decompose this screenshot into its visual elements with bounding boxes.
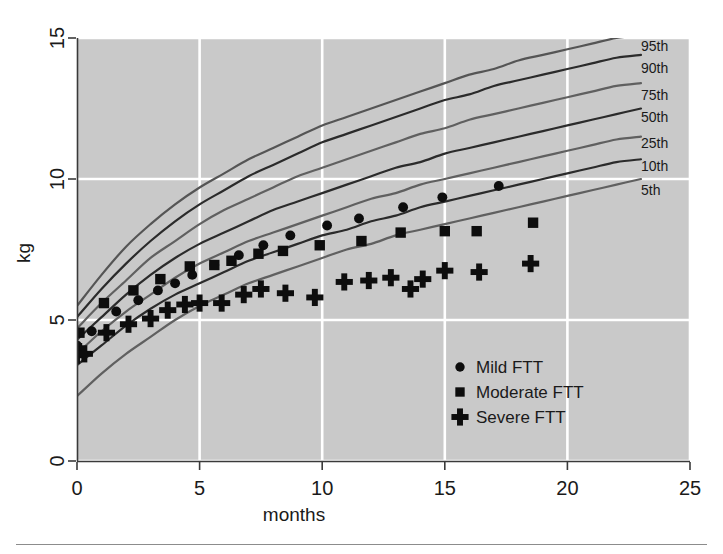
marker-moderate-ftt [528,218,538,228]
percentile-label-5th: 5th [641,182,660,198]
percentile-label-25th: 25th [641,135,668,151]
y-tick-label: 10 [46,168,68,190]
percentile-label-95th: 95th [641,38,668,54]
marker-mild-ftt [437,192,447,202]
marker-moderate-ftt [278,246,288,256]
legend-label-mild-ftt: Mild FTT [476,358,543,377]
percentile-label-90th: 90th [641,60,668,76]
marker-mild-ftt [111,307,121,317]
x-axis-title: months [263,504,325,525]
x-tick-label: 15 [434,477,456,499]
marker-moderate-ftt [253,249,263,259]
marker-mild-ftt [87,326,97,336]
percentile-label-10th: 10th [641,158,668,174]
y-tick-label: 15 [46,27,68,49]
marker-mild-ftt [494,181,504,191]
marker-moderate-ftt [356,236,366,246]
bottom-divider-rule [16,544,707,545]
marker-moderate-ftt [209,260,219,270]
legend-label-moderate-ftt: Moderate FTT [476,383,584,402]
y-axis-title: kg [13,243,34,263]
marker-mild-ftt [153,285,163,295]
x-tick-label: 0 [71,477,82,499]
growth-chart-figure: 0510152025 051015 95th90th75th50th25th10… [0,0,723,554]
marker-mild-ftt [354,214,364,224]
marker-moderate-ftt [226,256,236,266]
marker-moderate-ftt [99,298,109,308]
marker-mild-ftt [133,295,143,305]
x-tick-label: 5 [194,477,205,499]
marker-moderate-ftt [185,261,195,271]
percentile-label-50th: 50th [641,109,668,125]
plot-area-background [77,38,690,461]
marker-mild-ftt [170,278,180,288]
marker-mild-ftt [322,221,332,231]
legend-marker-circle [455,362,464,371]
x-tick-label: 25 [679,477,701,499]
legend-label-severe-ftt: Severe FTT [476,408,566,427]
marker-moderate-ftt [471,226,481,236]
percentile-label-75th: 75th [641,87,668,103]
marker-moderate-ftt [395,227,405,237]
marker-moderate-ftt [440,226,450,236]
legend-marker-square [455,387,464,396]
marker-mild-ftt [398,202,408,212]
chart-canvas: 0510152025 051015 95th90th75th50th25th10… [0,0,723,554]
marker-moderate-ftt [315,240,325,250]
y-tick-label: 5 [46,314,68,325]
x-tick-label: 10 [311,477,333,499]
x-tick-label: 20 [556,477,578,499]
marker-moderate-ftt [128,285,138,295]
marker-mild-ftt [285,230,295,240]
y-tick-label: 0 [46,455,68,466]
marker-moderate-ftt [155,274,165,284]
